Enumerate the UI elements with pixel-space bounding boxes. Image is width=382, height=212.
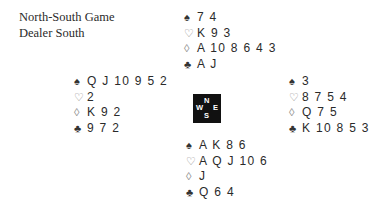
south-clubs: Q 6 4 (199, 185, 235, 201)
spade-icon: ♠ (74, 74, 87, 90)
south-hand: ♠A K 8 6 ♡A Q J 10 6 ◊J ♣Q 6 4 (186, 138, 268, 200)
compass-box: N W E S (193, 94, 221, 123)
spade-icon: ♠ (186, 138, 199, 154)
spade-icon: ♠ (289, 74, 302, 90)
diamond-icon: ◊ (289, 105, 302, 121)
south-spades-row: ♠A K 8 6 (186, 138, 268, 154)
south-diamonds-row: ◊J (186, 169, 268, 185)
south-diamonds: J (199, 169, 206, 185)
west-diamonds-row: ◊K 9 2 (74, 105, 168, 121)
club-icon: ♣ (184, 57, 197, 73)
east-hearts: 8 7 5 4 (302, 90, 348, 106)
west-diamonds: K 9 2 (87, 105, 122, 121)
west-hand: ♠Q J 10 9 5 2 ♡2 ◊K 9 2 ♣9 7 2 (74, 74, 168, 136)
club-icon: ♣ (186, 185, 199, 201)
north-hearts-row: ♡K 9 3 (184, 26, 277, 42)
spade-icon: ♠ (184, 10, 197, 26)
deal-info: North-South Game Dealer South (19, 9, 114, 41)
heart-icon: ♡ (186, 154, 199, 170)
club-icon: ♣ (289, 121, 302, 137)
east-spades-row: ♠3 (289, 74, 370, 90)
compass-east-label: E (213, 104, 218, 112)
west-hearts: 2 (87, 90, 95, 106)
east-diamonds: Q 7 5 (302, 105, 338, 121)
diamond-icon: ◊ (184, 41, 197, 57)
diamond-icon: ◊ (186, 169, 199, 185)
heart-icon: ♡ (289, 90, 302, 106)
west-clubs-row: ♣9 7 2 (74, 121, 168, 137)
east-hearts-row: ♡8 7 5 4 (289, 90, 370, 106)
north-spades-row: ♠7 4 (184, 10, 277, 26)
south-spades: A K 8 6 (199, 138, 247, 154)
compass-north-label: N (204, 97, 209, 105)
heart-icon: ♡ (74, 90, 87, 106)
south-clubs-row: ♣Q 6 4 (186, 185, 268, 201)
north-spades: 7 4 (197, 10, 218, 26)
west-spades: Q J 10 9 5 2 (87, 74, 168, 90)
east-hand: ♠3 ♡8 7 5 4 ◊Q 7 5 ♣K 10 8 5 3 (289, 74, 370, 136)
dealer-label: Dealer South (19, 25, 114, 41)
east-spades: 3 (302, 74, 310, 90)
vulnerability-label: North-South Game (19, 9, 114, 25)
east-clubs-row: ♣K 10 8 5 3 (289, 121, 370, 137)
west-clubs: 9 7 2 (87, 121, 120, 137)
east-clubs: K 10 8 5 3 (302, 121, 370, 137)
east-diamonds-row: ◊Q 7 5 (289, 105, 370, 121)
north-hearts: K 9 3 (197, 26, 232, 42)
south-hearts-row: ♡A Q J 10 6 (186, 154, 268, 170)
north-diamonds: A 10 8 6 4 3 (197, 41, 277, 57)
compass-south-label: S (204, 112, 209, 120)
north-hand: ♠7 4 ♡K 9 3 ◊A 10 8 6 4 3 ♣A J (184, 10, 277, 72)
compass-west-label: W (196, 104, 203, 112)
north-diamonds-row: ◊A 10 8 6 4 3 (184, 41, 277, 57)
north-clubs: A J (197, 57, 218, 73)
diamond-icon: ◊ (74, 105, 87, 121)
north-clubs-row: ♣A J (184, 57, 277, 73)
west-spades-row: ♠Q J 10 9 5 2 (74, 74, 168, 90)
south-hearts: A Q J 10 6 (199, 154, 268, 170)
heart-icon: ♡ (184, 26, 197, 42)
west-hearts-row: ♡2 (74, 90, 168, 106)
club-icon: ♣ (74, 121, 87, 137)
